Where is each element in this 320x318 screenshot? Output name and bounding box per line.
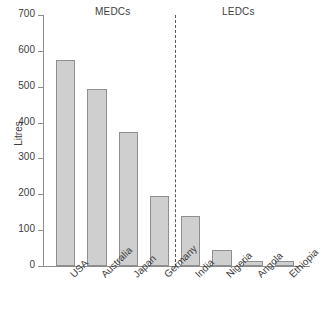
plot-area: 0100200300400500600700 bbox=[43, 15, 310, 267]
y-axis-tick: 500 bbox=[38, 87, 43, 88]
y-axis-tick: 700 bbox=[38, 15, 43, 16]
y-axis-tick-label: 500 bbox=[18, 80, 35, 91]
y-axis-tick-label: 300 bbox=[18, 151, 35, 162]
y-axis-tick-label: 0 bbox=[29, 259, 35, 270]
y-axis-tick: 600 bbox=[38, 51, 43, 52]
y-axis-tick: 200 bbox=[38, 194, 43, 195]
y-axis-tick: 100 bbox=[38, 230, 43, 231]
bar bbox=[87, 89, 106, 266]
y-axis-tick-label: 100 bbox=[18, 223, 35, 234]
y-axis-tick: 400 bbox=[38, 123, 43, 124]
bar-chart: MEDCs LEDCs Litres 010020030040050060070… bbox=[0, 0, 320, 318]
y-axis-tick: 300 bbox=[38, 158, 43, 159]
y-axis-line bbox=[43, 15, 44, 267]
group-divider-line bbox=[175, 15, 176, 267]
y-axis-tick: 0 bbox=[38, 266, 43, 267]
y-axis-tick-label: 200 bbox=[18, 187, 35, 198]
y-axis-tick-label: 600 bbox=[18, 44, 35, 55]
bar bbox=[56, 60, 75, 266]
y-axis-tick-label: 400 bbox=[18, 116, 35, 127]
y-axis-tick-label: 700 bbox=[18, 8, 35, 19]
